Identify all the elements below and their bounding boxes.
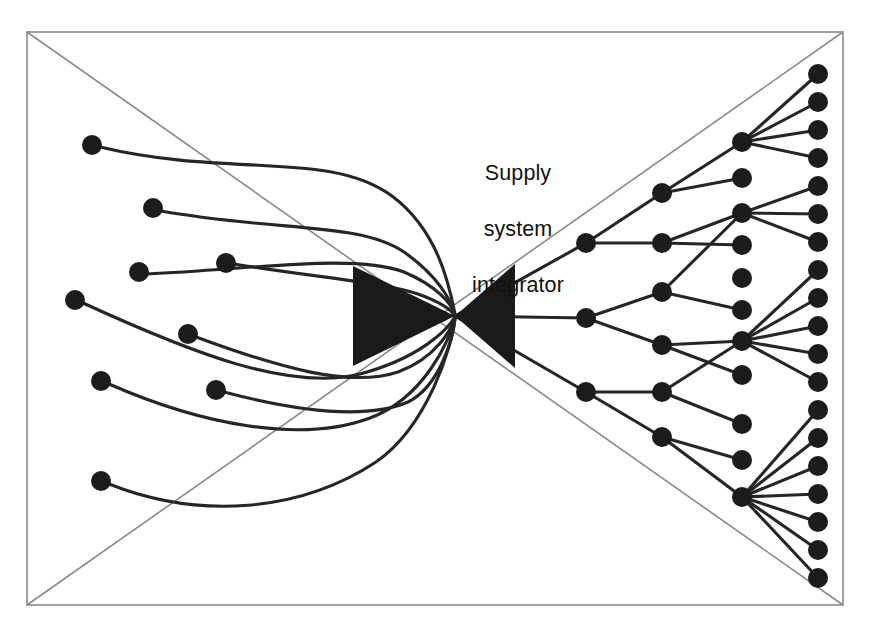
- supplier-node[interactable]: [91, 471, 111, 491]
- supplier-node[interactable]: [178, 324, 198, 344]
- customer-node-level-3[interactable]: [732, 365, 752, 385]
- customer-node-level-4[interactable]: [808, 372, 828, 392]
- distribution-link: [586, 292, 662, 318]
- customer-node-level-3[interactable]: [732, 331, 752, 351]
- distribution-link: [662, 437, 742, 497]
- customer-node-level-4[interactable]: [808, 568, 828, 588]
- distribution-link: [742, 213, 818, 242]
- customer-node-level-4[interactable]: [808, 512, 828, 532]
- diagram-canvas: [0, 0, 869, 628]
- distribution-link: [742, 466, 818, 497]
- customer-node-level-3[interactable]: [732, 268, 752, 288]
- supply-chain-hourglass-diagram: Supply system integrator: [0, 0, 869, 628]
- customer-node-level-3[interactable]: [732, 487, 752, 507]
- customer-node-level-3[interactable]: [732, 300, 752, 320]
- customer-node-level-2[interactable]: [652, 233, 672, 253]
- customer-node-level-2[interactable]: [652, 382, 672, 402]
- customer-node-level-4[interactable]: [808, 456, 828, 476]
- customer-node-level-4[interactable]: [808, 64, 828, 84]
- customer-node-level-2[interactable]: [652, 183, 672, 203]
- customer-node-level-3[interactable]: [732, 235, 752, 255]
- distribution-link: [662, 243, 742, 245]
- customer-node-level-4[interactable]: [808, 204, 828, 224]
- distribution-link: [662, 292, 742, 310]
- supplier-node[interactable]: [129, 262, 149, 282]
- distribution-link: [742, 494, 818, 497]
- distribution-link: [662, 213, 742, 243]
- customer-node-level-2[interactable]: [652, 282, 672, 302]
- distribution-link: [662, 213, 742, 292]
- distribution-link: [742, 213, 818, 214]
- customer-node-level-4[interactable]: [808, 232, 828, 252]
- customer-node-level-4[interactable]: [808, 288, 828, 308]
- supplier-node[interactable]: [206, 380, 226, 400]
- customer-node-level-4[interactable]: [808, 316, 828, 336]
- customer-node-level-3[interactable]: [732, 203, 752, 223]
- supply-nodes-group: [65, 135, 236, 491]
- customer-node-level-2[interactable]: [652, 335, 672, 355]
- distribution-link: [662, 341, 742, 345]
- distribution-link: [662, 392, 742, 424]
- customer-node-level-3[interactable]: [732, 132, 752, 152]
- distribution-link: [742, 142, 818, 158]
- distribution-link: [742, 186, 818, 213]
- hourglass-right-triangle: [455, 264, 515, 368]
- customer-node-level-4[interactable]: [808, 484, 828, 504]
- customer-node-level-4[interactable]: [808, 540, 828, 560]
- distribution-link: [662, 437, 742, 460]
- customer-node-level-4[interactable]: [808, 92, 828, 112]
- customer-node-level-4[interactable]: [808, 344, 828, 364]
- distribution-nodes-group: [576, 64, 828, 588]
- customer-node-level-1[interactable]: [576, 382, 596, 402]
- customer-node-level-4[interactable]: [808, 176, 828, 196]
- customer-node-level-4[interactable]: [808, 260, 828, 280]
- customer-node-level-1[interactable]: [576, 233, 596, 253]
- supplier-node[interactable]: [91, 371, 111, 391]
- customer-node-level-3[interactable]: [732, 168, 752, 188]
- hourglass-left-triangle: [353, 266, 455, 366]
- customer-node-level-4[interactable]: [808, 400, 828, 420]
- supplier-node[interactable]: [143, 198, 163, 218]
- customer-node-level-4[interactable]: [808, 428, 828, 448]
- distribution-link: [586, 318, 662, 345]
- customer-node-level-3[interactable]: [732, 450, 752, 470]
- customer-node-level-4[interactable]: [808, 148, 828, 168]
- supply-link-9: [109, 319, 455, 506]
- distribution-link: [742, 410, 818, 497]
- customer-node-level-4[interactable]: [808, 120, 828, 140]
- distribution-link: [586, 392, 662, 437]
- supplier-node[interactable]: [65, 290, 85, 310]
- distribution-link: [742, 438, 818, 497]
- supplier-node[interactable]: [216, 253, 236, 273]
- customer-node-level-2[interactable]: [652, 427, 672, 447]
- supplier-node[interactable]: [82, 135, 102, 155]
- customer-node-level-3[interactable]: [732, 414, 752, 434]
- customer-node-level-1[interactable]: [576, 308, 596, 328]
- distribution-link: [586, 193, 662, 243]
